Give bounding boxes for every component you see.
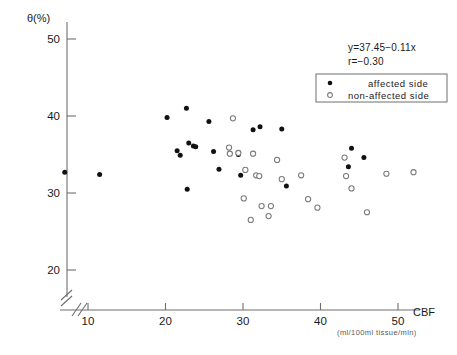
data-point — [206, 119, 211, 124]
data-point — [259, 203, 264, 208]
data-point — [266, 214, 271, 219]
x-tick-label-30: 30 — [237, 315, 250, 327]
data-point — [226, 145, 231, 150]
data-point — [315, 205, 320, 210]
data-point — [349, 186, 354, 191]
data-point — [211, 149, 216, 154]
data-point — [230, 116, 235, 121]
data-point — [384, 171, 389, 176]
data-point — [241, 196, 246, 201]
data-point — [227, 151, 232, 156]
legend: affected side non-affected side — [316, 74, 447, 102]
data-point — [175, 148, 180, 153]
data-point — [178, 153, 183, 158]
data-point — [186, 140, 191, 145]
x-tick-label-50: 50 — [392, 315, 405, 327]
legend-label-affected: affected side — [368, 78, 428, 89]
x-tick-label-20: 20 — [159, 315, 172, 327]
data-point — [185, 187, 190, 192]
y-tick-label-30: 30 — [47, 187, 60, 199]
data-point — [62, 170, 67, 175]
legend-label-non-affected: non-affected side — [348, 90, 429, 101]
data-point — [250, 151, 255, 156]
data-point — [342, 155, 347, 160]
x-axis-title: CBF — [413, 306, 435, 318]
data-point — [184, 106, 189, 111]
data-point — [238, 173, 243, 178]
data-point — [284, 184, 289, 189]
data-point — [411, 170, 416, 175]
data-point — [193, 144, 198, 149]
data-point — [248, 217, 253, 222]
y-tick-label-20: 20 — [47, 264, 60, 276]
data-point — [361, 155, 366, 160]
x-axis-units-label: (ml/100ml tissue/min) — [337, 328, 417, 337]
data-point — [306, 197, 311, 202]
data-point — [346, 164, 351, 169]
data-point — [343, 173, 348, 178]
series-non-affected-side — [226, 116, 416, 223]
x-tick-label-10: 10 — [82, 315, 95, 327]
data-point — [258, 124, 263, 129]
data-point — [257, 173, 262, 178]
data-point — [236, 150, 241, 155]
legend-marker-affected-icon — [328, 81, 333, 86]
y-tick-label-40: 40 — [47, 110, 60, 122]
data-point — [268, 203, 273, 208]
data-point — [349, 146, 354, 151]
regression-equation-label: y=37.45−0.11x — [348, 42, 416, 53]
plot-canvas: 203040501020304050 θ(%) CBF (ml/100ml ti… — [0, 0, 457, 355]
data-point — [251, 127, 256, 132]
data-point — [97, 172, 102, 177]
data-point — [299, 173, 304, 178]
data-point — [279, 127, 284, 132]
correlation-label: r=−0.30 — [348, 56, 384, 67]
series-affected-side — [62, 106, 366, 192]
data-point — [165, 115, 170, 120]
x-tick-label-40: 40 — [314, 315, 327, 327]
legend-marker-non-affected-icon — [328, 93, 333, 98]
data-point — [216, 167, 221, 172]
data-point — [364, 210, 369, 215]
y-axis-title: θ(%) — [27, 12, 50, 24]
y-tick-label-50: 50 — [47, 33, 60, 45]
data-point — [243, 167, 248, 172]
data-point — [279, 177, 284, 182]
axis-break-marks — [61, 290, 87, 316]
data-point — [275, 157, 280, 162]
scatter-plot-figure: 203040501020304050 θ(%) CBF (ml/100ml ti… — [0, 0, 457, 355]
